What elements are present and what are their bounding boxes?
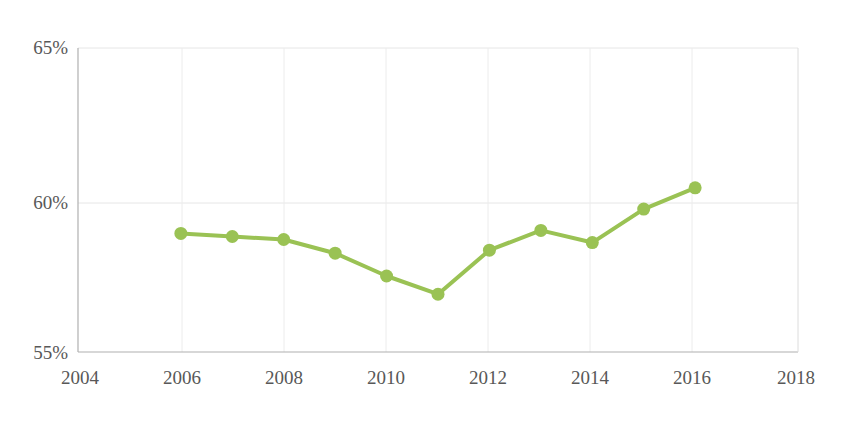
x-axis-tick-label-2012: 2012 (469, 367, 507, 388)
x-axis-tick-label-2018: 2018 (777, 367, 815, 388)
plot-area-background (78, 48, 798, 352)
data-point-2012 (483, 244, 496, 257)
line-chart: 65% 60% 55% 2004 2006 2008 2010 2012 201… (0, 0, 844, 434)
y-axis-tick-label-60: 60% (33, 192, 68, 213)
data-point-2015 (637, 203, 650, 216)
chart-canvas: 65% 60% 55% 2004 2006 2008 2010 2012 201… (0, 0, 844, 434)
y-axis-tick-label-65: 65% (33, 37, 68, 58)
x-axis-tick-label-2010: 2010 (367, 367, 405, 388)
data-point-2007 (226, 230, 239, 243)
data-point-2011 (432, 288, 445, 301)
data-point-2013 (534, 224, 547, 237)
data-point-2014 (586, 236, 599, 249)
data-point-2016 (689, 181, 702, 194)
data-point-2006 (174, 227, 187, 240)
x-axis-tick-label-2006: 2006 (163, 367, 201, 388)
y-axis-tick-label-55: 55% (33, 342, 68, 363)
x-axis-tick-label-2008: 2008 (265, 367, 303, 388)
data-point-2008 (277, 233, 290, 246)
x-axis-tick-label-2016: 2016 (673, 367, 711, 388)
x-axis-tick-label-2014: 2014 (571, 367, 610, 388)
data-point-2009 (329, 247, 342, 260)
data-point-2010 (380, 270, 393, 283)
x-axis-tick-label-2004: 2004 (61, 367, 100, 388)
